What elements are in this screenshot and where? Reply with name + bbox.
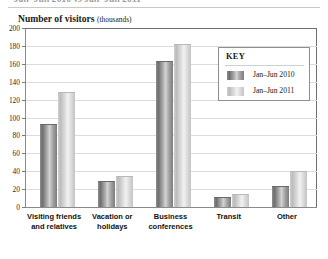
bar-top-edge (98, 181, 115, 182)
x-axis-label: Other (258, 212, 316, 222)
x-axis-label-line: conferences (141, 222, 199, 232)
x-axis-label-line: Transit (200, 212, 258, 222)
x-axis-label-line: Visiting friends (25, 212, 83, 222)
y-axis-tick-label: 180 (9, 41, 20, 50)
bar (232, 194, 249, 207)
legend-title: KEY (226, 52, 245, 61)
legend-divider (225, 65, 304, 66)
y-axis-tick-label: 20 (13, 185, 20, 194)
y-axis-tick-label: 200 (9, 24, 20, 33)
bar-group (98, 28, 133, 207)
y-axis-tick-label: 80 (13, 131, 20, 140)
bar-top-edge (156, 61, 173, 62)
x-axis-label: Visiting friendsand relatives (25, 212, 83, 231)
legend-swatch-2010 (227, 71, 244, 80)
x-axis-label: Transit (200, 212, 258, 222)
y-axis-tick-label: 40 (13, 167, 20, 176)
x-axis-label-line: holidays (83, 222, 141, 232)
y-axis-tick (22, 207, 26, 208)
bar-group (156, 28, 191, 207)
y-axis-tick-label: 160 (9, 59, 20, 68)
legend-label-2010: Jan–Jun 2010 (253, 70, 295, 79)
bar-group (40, 28, 75, 207)
bar-top-edge (214, 197, 231, 198)
bar (214, 197, 231, 207)
bar-top-edge (174, 44, 191, 45)
y-axis-tick-label: 100 (9, 113, 20, 122)
legend-box: KEY Jan–Jun 2010 Jan–Jun 2011 (218, 47, 310, 101)
bar (98, 181, 115, 207)
y-axis-tick-label: 120 (9, 95, 20, 104)
bar (58, 92, 75, 207)
legend-swatch-2011 (227, 87, 244, 96)
bar-top-edge (232, 194, 249, 195)
x-axis-label: Businessconferences (141, 212, 199, 231)
y-axis-tick-label: 140 (9, 77, 20, 86)
bar-top-edge (272, 186, 289, 187)
bar-top-edge (290, 171, 307, 172)
x-axis-label-line: Business (141, 212, 199, 222)
bar (156, 61, 173, 207)
bar-top-edge (40, 124, 57, 125)
bar-top-edge (58, 92, 75, 93)
x-axis-label-line: Vacation or (83, 212, 141, 222)
bar (272, 186, 289, 207)
y-axis-tick-label: 0 (16, 203, 20, 212)
y-axis-tick-label: 60 (13, 149, 20, 158)
bar (40, 124, 57, 207)
x-axis-label-line: and relatives (25, 222, 83, 232)
legend-label-2011: Jan–Jun 2011 (253, 86, 294, 95)
chart-canvas: 020406080100120140160180200 Visiting fri… (0, 0, 328, 259)
bar (290, 171, 307, 207)
x-axis-label: Vacation orholidays (83, 212, 141, 231)
bar-top-edge (116, 176, 133, 177)
x-axis-label-line: Other (258, 212, 316, 222)
bar (116, 176, 133, 207)
bar (174, 44, 191, 207)
